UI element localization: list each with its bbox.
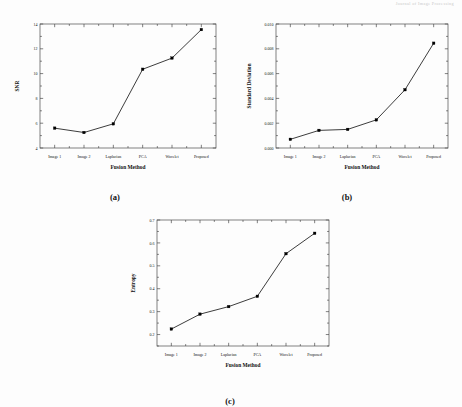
data-line [55,30,202,133]
y-tick-label: 0.006 [265,71,274,76]
data-point-marker [141,68,144,71]
x-axis-title: Fusion Method [345,164,380,170]
data-point-marker [170,328,173,331]
y-tick-label: 0.002 [265,121,274,126]
y-tick-label: 0.6 [150,241,155,246]
plot-area-c: 0.20.30.40.50.60.7Image 1Image 2Laplacia… [119,206,341,402]
standard-deviation-line-chart: 0.0000.0020.0040.0060.0080.010Image 1Ima… [236,10,458,200]
x-tick-label: PCA [372,154,380,159]
caption-c: (c) [119,396,341,406]
y-tick-label: 0.004 [265,96,274,101]
data-point-marker [375,119,378,122]
x-axis-title: Fusion Method [226,362,261,368]
data-point-marker [171,57,174,60]
x-tick-label: Proposed [426,154,441,159]
chart-panel-a: 468101214Image 1Image 2LaplacianPCAWavel… [4,10,226,200]
y-tick-label: 0.4 [150,286,155,291]
data-point-marker [313,232,316,235]
data-point-marker [432,42,435,45]
x-tick-label: Laplacian [340,154,356,159]
data-point-marker [285,252,288,255]
plot-area-a: 468101214Image 1Image 2LaplacianPCAWavel… [4,10,226,200]
y-axis-title: Standard Deviation [246,63,252,108]
data-line [290,43,433,139]
data-point-marker [53,127,56,130]
x-tick-label: Laplacian [105,154,121,159]
data-point-marker [83,131,86,134]
y-tick-label: 0.008 [265,46,274,51]
data-point-marker [256,295,259,298]
y-tick-label: 0.7 [150,218,155,223]
x-tick-label: Image 1 [48,154,61,159]
y-tick-label: 8 [36,96,38,101]
y-tick-label: 4 [36,146,38,151]
x-tick-label: PCA [139,154,147,159]
y-tick-label: 0.5 [150,263,155,268]
y-tick-label: 0.010 [265,22,274,27]
data-point-marker [404,88,407,91]
plot-area-b: 0.0000.0020.0040.0060.0080.010Image 1Ima… [236,10,458,200]
y-tick-label: 10 [34,71,38,76]
x-tick-label: Image 2 [78,154,91,159]
data-point-marker [289,138,292,141]
y-tick-label: 14 [34,22,38,27]
y-tick-label: 12 [34,46,38,51]
y-tick-label: 0.000 [265,146,274,151]
x-tick-label: Proposed [307,352,322,357]
entropy-line-chart: 0.20.30.40.50.60.7Image 1Image 2Laplacia… [119,206,341,402]
x-tick-label: Wavelet [398,154,412,159]
caption-b: (b) [236,192,458,202]
x-tick-label: Proposed [194,154,209,159]
x-tick-label: Wavelet [279,352,293,357]
data-point-marker [227,305,230,308]
snr-line-chart: 468101214Image 1Image 2LaplacianPCAWavel… [4,10,226,200]
figure-page: Journal of Image Processing 468101214Ima… [0,0,462,407]
x-tick-label: Image 1 [165,352,178,357]
chart-panel-c: 0.20.30.40.50.60.7Image 1Image 2Laplacia… [119,206,341,402]
y-tick-label: 0.3 [150,309,155,314]
data-point-marker [318,129,321,132]
caption-a: (a) [4,192,226,202]
x-tick-label: Image 1 [284,154,297,159]
chart-panel-b: 0.0000.0020.0040.0060.0080.010Image 1Ima… [236,10,458,200]
x-tick-label: PCA [253,352,261,357]
y-axis-title: Entropy [130,273,136,292]
running-head: Journal of Image Processing [396,1,454,6]
y-tick-label: 6 [36,121,38,126]
x-tick-label: Image 2 [313,154,326,159]
data-point-marker [200,28,203,31]
x-tick-label: Wavelet [165,154,179,159]
x-tick-label: Laplacian [221,352,237,357]
data-line [171,233,314,329]
data-point-marker [346,128,349,131]
x-axis-title: Fusion Method [111,164,146,170]
y-tick-label: 0.2 [150,332,155,337]
x-tick-label: Image 2 [194,352,207,357]
data-point-marker [112,123,115,126]
data-point-marker [199,313,202,316]
y-axis-title: SNR [14,81,20,92]
